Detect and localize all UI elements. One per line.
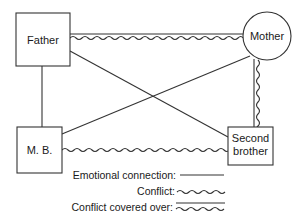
node-label-line1: Second <box>232 132 269 144</box>
edge-mother-mb <box>62 56 250 134</box>
node-mother: Mother <box>243 12 291 60</box>
node-label-line2: brother <box>233 145 268 157</box>
family-diagram: Father Mother M. B. Second brother Emoti… <box>0 0 293 221</box>
legend-item-conflict: Conflict: <box>137 185 225 197</box>
legend-label: Conflict: <box>137 185 175 197</box>
legend-label: Conflict covered over: <box>71 201 173 213</box>
legend-swatch-wavy <box>176 208 224 211</box>
legend-label: Emotional connection: <box>73 169 176 181</box>
edge-father-second-brother <box>70 51 228 137</box>
node-label: Mother <box>250 30 285 42</box>
legend-item-conflict-covered-over: Conflict covered over: <box>71 201 225 213</box>
edge-wave <box>70 37 243 40</box>
legend-item-emotional-connection: Emotional connection: <box>73 169 224 181</box>
node-father: Father <box>16 13 70 66</box>
edge-father-mother <box>70 34 243 40</box>
edge-mother-second-brother <box>254 59 260 131</box>
node-label: Father <box>27 34 59 46</box>
edge-wave <box>257 60 260 131</box>
node-mb: M. B. <box>17 127 62 173</box>
legend-swatch-wavy <box>177 191 225 194</box>
edge-mb-second-brother <box>62 149 229 152</box>
node-label: M. B. <box>27 144 53 156</box>
node-second-brother: Second brother <box>228 127 273 165</box>
legend: Emotional connection: Conflict: Conflict… <box>71 169 225 213</box>
